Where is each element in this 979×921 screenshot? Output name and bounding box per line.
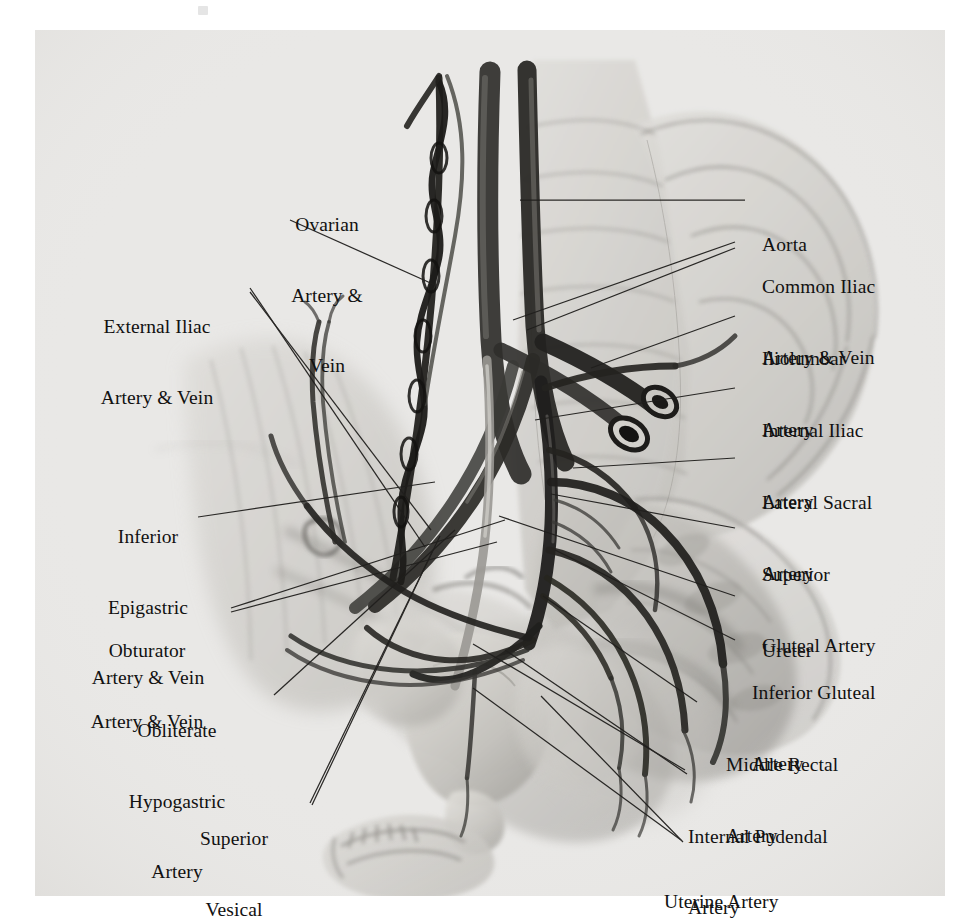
label-line: Artery & Vein [62,386,252,410]
label-line: Obturator [52,639,242,663]
scan-artifact-mark [198,6,208,15]
label-line: Uterine Artery [664,890,904,914]
label-line: Vein [262,354,392,378]
label-line: Middle Rectal [726,753,946,777]
label-line: Internal Iliac [762,419,962,443]
label-superior-vesical: Superior Vesical Artery [160,780,308,921]
label-uterine: Uterine Artery [664,843,904,921]
label-line: Superior [160,827,308,851]
label-external-iliac: External Iliac Artery & Vein [62,268,252,456]
label-ovarian: Ovarian Artery & Vein [262,166,392,425]
label-line: Artery & [262,284,392,308]
label-line: Ovarian [262,213,392,237]
label-line: Lateral Sacral [762,491,972,515]
label-line: Obliterate [82,719,272,743]
label-line: Vesical [160,898,308,921]
anatomy-figure: Ovarian Artery & Vein External Iliac Art… [0,0,979,921]
label-line: External Iliac [62,315,252,339]
label-line: Inferior Gluteal [752,681,972,705]
label-line: Iliolumbar [762,347,962,371]
label-line: Common Iliac [762,275,972,299]
label-line: Inferior [48,525,248,549]
label-line: Superior [762,563,979,587]
